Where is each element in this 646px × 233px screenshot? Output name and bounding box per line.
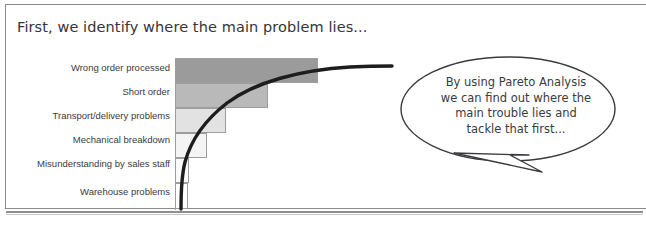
category-label-column: Wrong order processed Short order Transp…	[8, 58, 170, 208]
speech-bubble-text: By using Pareto Analysis we can find out…	[420, 75, 612, 137]
speech-bubble: By using Pareto Analysis we can find out…	[392, 52, 640, 187]
bubble-line-4: tackle that first...	[420, 122, 612, 138]
page-title: First, we identify where the main proble…	[17, 19, 367, 35]
bubble-line-1: By using Pareto Analysis	[420, 75, 612, 91]
category-label-warehouse-problems: Warehouse problems	[80, 186, 170, 197]
pareto-cumulative-curve	[175, 58, 405, 210]
bubble-line-3: main trouble lies and	[420, 106, 612, 122]
category-label-wrong-order-processed: Wrong order processed	[71, 62, 170, 73]
category-label-mechanical-breakdown: Mechanical breakdown	[73, 134, 170, 145]
category-label-short-order: Short order	[122, 86, 170, 97]
category-label-misunderstanding-sales-staff: Misunderstanding by sales staff	[37, 158, 170, 169]
category-label-transport-delivery-problems: Transport/delivery problems	[53, 110, 170, 121]
pareto-chart-plot-area	[175, 58, 405, 210]
slide-frame-shadow	[6, 211, 643, 213]
bubble-line-2: we can find out where the	[420, 91, 612, 107]
slide-frame-shadow-light	[6, 214, 643, 215]
